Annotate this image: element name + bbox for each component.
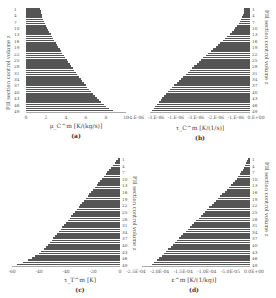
y-tick-label: 10 (14, 27, 19, 31)
caption-c: (c) (75, 286, 84, 293)
y-tick-label: 16 (122, 191, 127, 195)
plot-area-c (12, 158, 120, 266)
x-tick-label: -40 (62, 269, 69, 274)
y-axis-label-d: Fill section control volume z (264, 162, 270, 237)
x-tick-label: -3.E-06 (188, 115, 204, 120)
y-tick-label: 25 (252, 59, 257, 63)
y-tick-label: 25 (14, 59, 19, 63)
x-tick-label: -5.0E-05 (221, 269, 240, 274)
y-tick-label: 1 (252, 8, 255, 12)
x-tick-label: -1.0E-04 (197, 269, 216, 274)
x-tick-label: 0 (119, 269, 122, 274)
y-tick-label: 37 (252, 237, 257, 241)
x-axis-line (142, 266, 250, 267)
y-tick-label: 31 (252, 224, 257, 228)
y-tick-label: 22 (122, 204, 127, 208)
y-tick-label: 37 (252, 84, 257, 88)
y-tick-label: 46 (252, 257, 257, 261)
y-tick-label: 49 (14, 110, 19, 114)
y-tick-label: 46 (14, 104, 19, 108)
y-tick-label: 13 (252, 33, 257, 37)
y-tick-label: 1 (14, 8, 17, 12)
y-tick-label: 31 (252, 72, 257, 76)
y-tick-label: 28 (14, 65, 19, 69)
y-tick-label: 49 (252, 264, 257, 268)
y-tick-label: 46 (122, 257, 127, 261)
y-tick-label: 1 (252, 158, 255, 162)
x-tick-label: -40 (35, 269, 42, 274)
y-tick-label: 25 (122, 211, 127, 215)
x-tick-label: 0 (25, 115, 28, 120)
y-tick-label: 7 (252, 21, 255, 25)
y-tick-label: 37 (14, 84, 19, 88)
y-tick-label: 4 (252, 165, 255, 169)
y-tick-label: 22 (14, 53, 19, 57)
x-axis-line (12, 266, 120, 267)
y-tick-label: 19 (14, 46, 19, 50)
caption-b: (b) (195, 134, 205, 141)
x-tick-label: -2.0E-04 (150, 269, 169, 274)
x-tick-label: -1.E-06 (168, 115, 184, 120)
y-tick-label: 16 (252, 191, 257, 195)
y-tick-label: 22 (252, 204, 257, 208)
y-tick-label: 25 (252, 211, 257, 215)
y-tick-label: 19 (252, 46, 257, 50)
panel-a: Fill section control volume z 1471013161… (0, 0, 138, 148)
y-tick-label: 4 (14, 14, 17, 18)
y-tick-label: 34 (252, 78, 257, 82)
x-ticks-c: -60-40-40-200 (12, 269, 120, 275)
x-ticks-a: 0246810 (26, 115, 126, 121)
y-tick-label: 7 (122, 171, 125, 175)
panel-b: 1471013161922252831343740434649 Fill sec… (138, 0, 276, 148)
y-tick-label: 34 (252, 231, 257, 235)
y-tick-label: 31 (14, 72, 19, 76)
y-ticks-c: 1471013161922252831343740434649 (122, 158, 130, 266)
x-axis-label-c: τ_T^m [K] (64, 276, 96, 283)
y-tick-label: 13 (252, 184, 257, 188)
x-tick-label: 0.0E+00 (244, 269, 264, 274)
caption-d: (d) (189, 286, 199, 293)
x-tick-label: -60 (8, 269, 15, 274)
x-tick-label: -1.E-06 (228, 115, 244, 120)
x-tick-label: -2.E-06 (208, 115, 224, 120)
x-tick-label: 2 (45, 115, 48, 120)
x-tick-label: -4.E-06 (128, 115, 144, 120)
y-tick-label: 28 (252, 218, 257, 222)
panel-c: 1471013161922252831343740434649 Fill sec… (0, 148, 138, 298)
x-tick-label: -3.E-06 (148, 115, 164, 120)
x-tick-label: 6 (85, 115, 88, 120)
x-tick-label: -2.5E-04 (126, 269, 145, 274)
y-tick-label: 40 (252, 91, 257, 95)
y-tick-label: 4 (252, 14, 255, 18)
x-tick-label: -20 (89, 269, 96, 274)
y-tick-label: 4 (122, 165, 125, 169)
y-tick-label: 13 (122, 184, 127, 188)
y-tick-label: 40 (122, 244, 127, 248)
x-ticks-b: -4.E-06-3.E-06-1.E-06-3.E-06-2.E-06-1.E-… (136, 115, 256, 121)
y-tick-label: 40 (252, 244, 257, 248)
y-ticks-b: 1471013161922252831343740434649 (252, 8, 262, 112)
x-ticks-d: -2.5E-04-2.0E-04-1.5E-04-1.0E-04-5.0E-05… (136, 269, 254, 275)
x-axis-label-d: ε^m [K/(1/kg)] (172, 276, 217, 283)
y-tick-label: 43 (122, 251, 127, 255)
y-tick-label: 43 (14, 97, 19, 101)
y-tick-label: 13 (14, 33, 19, 37)
y-tick-label: 34 (122, 231, 127, 235)
y-tick-label: 46 (252, 104, 257, 108)
y-tick-label: 49 (122, 264, 127, 268)
y-tick-label: 1 (122, 158, 125, 162)
y-tick-label: 7 (14, 21, 17, 25)
y-tick-label: 40 (14, 91, 19, 95)
y-tick-label: 10 (252, 178, 257, 182)
y-tick-label: 28 (122, 218, 127, 222)
y-tick-label: 31 (122, 224, 127, 228)
y-tick-label: 37 (122, 237, 127, 241)
panel-d: 1471013161922252831343740434649 Fill sec… (138, 148, 276, 298)
x-axis-line (26, 112, 126, 113)
y-tick-label: 10 (252, 27, 257, 31)
x-axis-label-a: μ_C^m [K/(kg/s)] (50, 122, 103, 129)
x-tick-label: 4 (65, 115, 68, 120)
y-ticks-a: 1471013161922252831343740434649 (14, 8, 24, 112)
y-tick-label: 7 (252, 171, 255, 175)
y-tick-label: 19 (252, 198, 257, 202)
